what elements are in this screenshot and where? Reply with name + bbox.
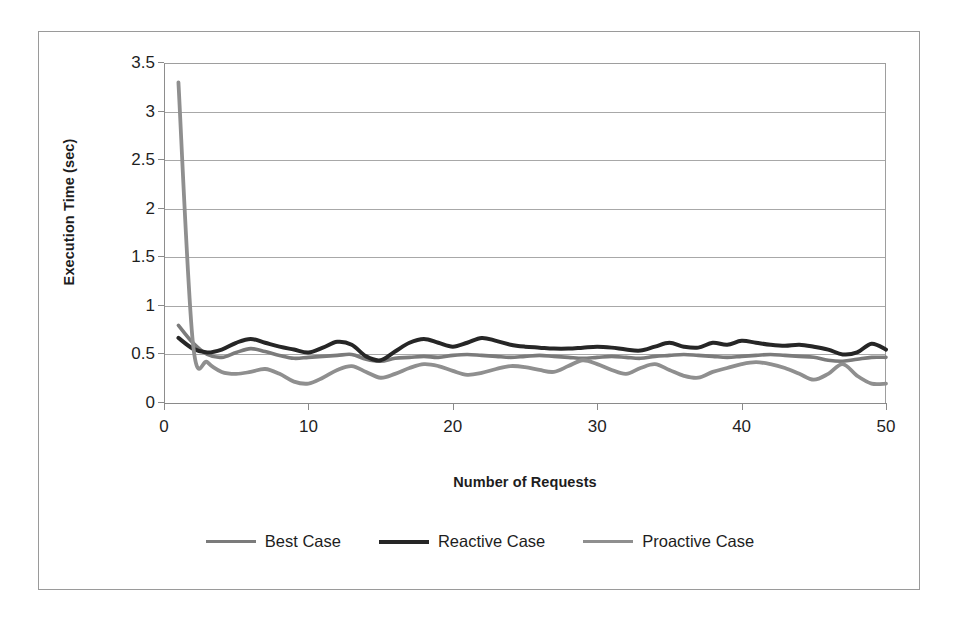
y-tick-label: 1 <box>146 296 155 316</box>
x-tick-mark <box>742 403 743 410</box>
x-tick-mark <box>164 403 165 410</box>
legend-label: Best Case <box>265 532 341 551</box>
x-tick-mark <box>886 403 887 410</box>
series-lines <box>164 63 886 403</box>
x-tick-label: 30 <box>588 417 607 437</box>
x-tick-label: 40 <box>732 417 751 437</box>
legend-swatch-line-icon <box>379 540 429 544</box>
legend-entry: Reactive Case <box>379 532 545 551</box>
legend-label: Reactive Case <box>438 532 545 551</box>
y-tick-label: 3 <box>146 102 155 122</box>
y-tick-label: 0.5 <box>131 344 155 364</box>
y-tick-label: 0 <box>146 393 155 413</box>
x-tick-label: 10 <box>299 417 318 437</box>
y-tick-label: 2 <box>146 199 155 219</box>
x-axis-title: Number of Requests <box>164 474 886 490</box>
legend-entry: Best Case <box>206 532 341 551</box>
legend-swatch-line-icon <box>206 540 256 543</box>
series-line <box>178 82 886 384</box>
x-tick-label: 0 <box>159 417 168 437</box>
y-tick-label: 3.5 <box>131 53 155 73</box>
y-tick-label: 2.5 <box>131 150 155 170</box>
chart-figure: Execution Time (sec) 00.511.522.533.5 01… <box>38 31 920 590</box>
chart-legend: Best CaseReactive CaseProactive Case <box>39 532 921 551</box>
legend-entry: Proactive Case <box>583 532 754 551</box>
y-axis-title: Execution Time (sec) <box>61 112 77 312</box>
y-tick-label: 1.5 <box>131 247 155 267</box>
x-tick-mark <box>453 403 454 410</box>
x-tick-label: 50 <box>877 417 896 437</box>
x-tick-mark <box>308 403 309 410</box>
series-line <box>178 325 886 361</box>
plot-area: 00.511.522.533.5 01020304050 <box>164 63 886 403</box>
gridline <box>164 403 886 404</box>
legend-swatch-line-icon <box>583 540 633 543</box>
x-tick-mark <box>597 403 598 410</box>
x-tick-label: 20 <box>443 417 462 437</box>
legend-label: Proactive Case <box>642 532 754 551</box>
